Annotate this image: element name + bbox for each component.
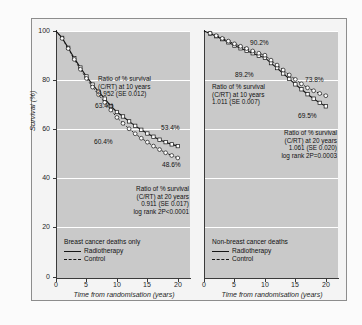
left-annot-10y: Ratio of % survival (C/RT) at 10 years 0… (98, 75, 151, 98)
solid-line-icon (64, 251, 81, 252)
chart-frame: 100 80 60 40 20 0 Survival (%) 0 5 10 15… (31, 18, 347, 301)
right-label-rt-20y: 69.5% (298, 112, 317, 119)
left-label-rt-20y: 53.4% (161, 124, 180, 131)
right-legend-title: Non-breast cancer deaths (212, 238, 288, 247)
dashed-line-icon (212, 259, 229, 260)
solid-line-icon (212, 251, 229, 252)
dashed-line-icon (64, 259, 81, 260)
right-label-rt-10y: 89.2% (235, 71, 254, 78)
right-legend-row-control: Control (212, 256, 288, 264)
left-label-rt-10y: 63.4% (95, 102, 114, 109)
left-legend-title: Breast cancer deaths only (64, 238, 140, 247)
panel-non-breast-cancer-deaths: 0 5 10 15 20 Time from randomisation (ye… (192, 19, 346, 300)
left-label-ctl-20y: 48.6% (162, 161, 181, 168)
left-legend: Breast cancer deaths only Radiotherapy C… (64, 238, 140, 264)
left-legend-row-control: Control (64, 256, 140, 264)
right-annot-20y: Ratio of % survival (C/RT) at 20 years 1… (250, 129, 337, 159)
right-label-ctl-10y: 90.2% (250, 39, 269, 46)
right-label-ctl-20y: 73.8% (305, 76, 324, 83)
left-legend-label-control: Control (84, 255, 105, 264)
right-legend: Non-breast cancer deaths Radiotherapy Co… (212, 238, 288, 264)
panel-breast-cancer-deaths: 100 80 60 40 20 0 Survival (%) 0 5 10 15… (32, 19, 192, 300)
right-legend-label-control: Control (232, 255, 253, 264)
right-annot-10y: Ratio of % survival (C/RT) at 10 years 1… (212, 83, 265, 106)
left-annot-20y: Ratio of % survival (C/RT) at 20 years 0… (104, 185, 189, 215)
left-label-ctl-10y: 60.4% (94, 138, 113, 145)
survival-chart-figure: 100 80 60 40 20 0 Survival (%) 0 5 10 15… (0, 0, 362, 325)
